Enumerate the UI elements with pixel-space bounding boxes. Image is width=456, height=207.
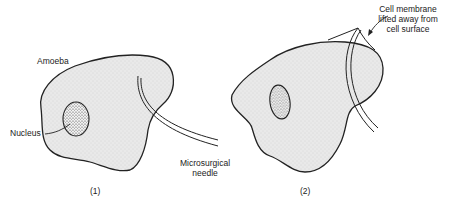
nucleus-label: Nucleus <box>10 128 41 138</box>
needle-label-line2: needle <box>175 168 235 178</box>
membrane-label-line1: Cell membrane <box>368 4 448 14</box>
membrane-label: Cell membrane lifted away from cell surf… <box>368 4 448 34</box>
amoeba-1-body <box>41 55 174 171</box>
panel-2-caption: (2) <box>300 186 310 196</box>
membrane-label-line3: cell surface <box>368 24 448 34</box>
needle-label: Microsurgical needle <box>175 158 235 178</box>
membrane-label-line2: lifted away from <box>368 14 448 24</box>
needle-label-line1: Microsurgical <box>175 158 235 168</box>
amoeba-label: Amoeba <box>37 56 69 66</box>
amoeba-microsurgery-figure: Amoeba Nucleus Microsurgical needle (1) … <box>0 0 456 207</box>
nucleus-1 <box>63 102 89 136</box>
panel-1-caption: (1) <box>90 186 100 196</box>
